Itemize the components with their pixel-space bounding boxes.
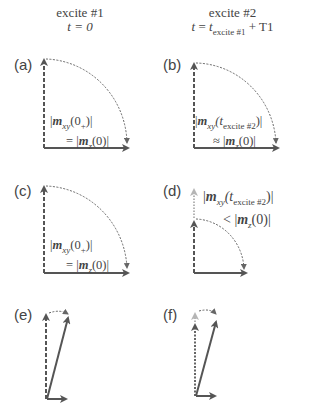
equation-line-1: |mxy(0+)| bbox=[50, 238, 109, 258]
equation-line-1: |mxy(texcite #2)| bbox=[195, 114, 262, 134]
equation-line-2: ≈ |mz(0)| bbox=[195, 134, 262, 154]
panel-d-equation: |mxy(texcite #2)| < |mz(0)| bbox=[203, 188, 273, 234]
rotation-arc bbox=[199, 310, 216, 314]
panel-e-vectors bbox=[46, 311, 68, 399]
equation-line-2: = |mz(0)| bbox=[50, 134, 109, 154]
tilted-m-arrow bbox=[47, 318, 68, 399]
panel-b-equation: |mxy(texcite #2)| ≈ |mz(0)| bbox=[195, 114, 262, 153]
equation-line-2: < |mz(0)| bbox=[203, 211, 273, 234]
equation-line-1: |mxy(texcite #2)| bbox=[203, 188, 273, 211]
panel-c-equation: |mxy(0+)| = |mz(0)| bbox=[50, 238, 109, 277]
panel-a-equation: |mxy(0+)| = |mz(0)| bbox=[50, 114, 109, 153]
tilted-m-arrow bbox=[196, 322, 216, 396]
equation-line-2: = |mz(0)| bbox=[50, 258, 109, 278]
panel-f-vectors bbox=[195, 310, 216, 396]
equation-line-1: |mxy(0+)| bbox=[50, 114, 109, 134]
rotation-arc bbox=[49, 311, 68, 314]
